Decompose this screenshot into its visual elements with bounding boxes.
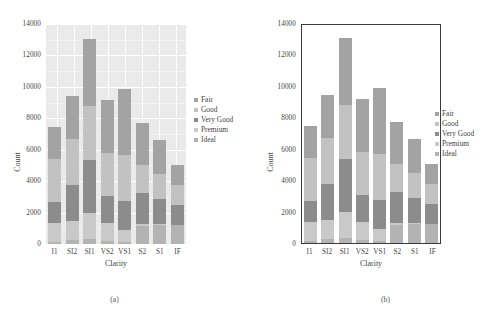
bar-SI1[interactable]	[339, 25, 352, 243]
bar-segment-I1-fair	[304, 126, 317, 157]
legend-item-very-good-b[interactable]: Very Good	[435, 130, 474, 137]
legend-item-good-b[interactable]: Good	[435, 120, 474, 127]
y-tick-14000-a: 14000	[23, 20, 46, 28]
bar-segment-SI2-premium	[66, 221, 79, 240]
bar-segment-SI2-very-good	[321, 184, 334, 220]
x-tick-IF-a: IF	[171, 248, 184, 256]
legend-swatch-icon	[435, 132, 439, 136]
bar-segment-VS2-fair	[356, 99, 369, 152]
bar-segment-IF-good	[425, 184, 438, 204]
legend-item-good-a[interactable]: Good	[194, 106, 233, 113]
bar-segment-VS1-fair	[373, 88, 386, 154]
y-tick-6000-a: 6000	[26, 146, 46, 154]
bar-segment-SI1-good	[339, 105, 352, 159]
bar-segment-IF-fair	[171, 165, 184, 185]
legend-item-fair-a[interactable]: Fair	[194, 96, 233, 103]
bar-segment-IF-ideal	[171, 225, 184, 244]
plot-wrapper-b: 02000400060008000100001200014000 I1SI2SI…	[301, 24, 441, 244]
bar-segment-VS1-good	[118, 155, 131, 202]
legend-label: Ideal	[442, 150, 457, 157]
bar-segment-VS2-very-good	[356, 195, 369, 222]
bar-SI2[interactable]	[321, 25, 334, 243]
bar-segment-S2-very-good	[136, 193, 149, 224]
legend-item-fair-b[interactable]: Fair	[435, 110, 474, 117]
y-tick-14000-b: 14000	[278, 20, 301, 28]
x-tick-S1-b: S1	[408, 248, 421, 256]
bar-segment-S1-good	[408, 173, 421, 197]
x-axis-label-a: Clarity	[46, 259, 186, 268]
x-tick-SI1-b: SI1	[338, 248, 351, 256]
bar-segment-SI2-good	[321, 138, 334, 184]
legend-item-ideal-a[interactable]: Ideal	[194, 136, 233, 143]
bar-I1[interactable]	[304, 25, 317, 243]
y-tick-12000-b: 12000	[278, 51, 301, 59]
legend-label: Ideal	[201, 136, 216, 143]
bar-segment-I1-ideal	[304, 241, 317, 243]
bar-segment-VS2-fair	[101, 100, 114, 153]
bar-VS2[interactable]	[101, 24, 114, 244]
x-tick-I1-a: I1	[48, 248, 61, 256]
x-tick-labels-b: I1SI2SI1VS2VS1S2S1IF	[301, 248, 441, 256]
legend-swatch-icon	[194, 138, 198, 142]
bar-segment-I1-premium	[304, 222, 317, 241]
y-tick-8000-b: 8000	[281, 114, 301, 122]
bar-segment-VS1-fair	[118, 89, 131, 155]
legend-a: FairGoodVery GoodPremiumIdeal	[194, 96, 233, 143]
x-tick-labels-a: I1SI2SI1VS2VS1S2S1IF	[46, 248, 186, 256]
bar-S1[interactable]	[408, 25, 421, 243]
bar-segment-VS1-very-good	[373, 200, 386, 229]
bar-segment-SI2-premium	[321, 220, 334, 239]
bar-segment-SI1-premium	[83, 213, 96, 240]
bar-VS1[interactable]	[118, 24, 131, 244]
legend-item-premium-b[interactable]: Premium	[435, 140, 474, 147]
legend-item-very-good-a[interactable]: Very Good	[194, 116, 233, 123]
legend-swatch-icon	[194, 98, 198, 102]
legend-b: FairGoodVery GoodPremiumIdeal	[435, 110, 474, 157]
plot-wrapper-a: 02000400060008000100001200014000 I1SI2SI…	[46, 24, 186, 244]
bar-VS1[interactable]	[373, 25, 386, 243]
legend-label: Very Good	[442, 130, 474, 137]
legend-item-ideal-b[interactable]: Ideal	[435, 150, 474, 157]
bar-segment-S1-good	[153, 174, 166, 198]
y-tick-10000-b: 10000	[278, 83, 301, 91]
bar-S1[interactable]	[153, 24, 166, 244]
bar-segment-I1-good	[304, 158, 317, 202]
bar-I1[interactable]	[48, 24, 61, 244]
bar-SI1[interactable]	[83, 24, 96, 244]
bar-segment-I1-very-good	[304, 201, 317, 222]
x-tick-VS2-b: VS2	[356, 248, 369, 256]
bar-S2[interactable]	[136, 24, 149, 244]
bar-segment-SI1-very-good	[83, 160, 96, 213]
bar-segment-SI2-fair	[66, 96, 79, 139]
legend-label: Very Good	[201, 116, 233, 123]
legend-label: Good	[201, 106, 217, 113]
y-tick-12000-a: 12000	[23, 51, 46, 59]
bar-segment-SI2-ideal	[66, 240, 79, 244]
panel-a: Count 02000400060008000100001200014000 I…	[0, 0, 249, 324]
bar-segment-I1-fair	[48, 127, 61, 158]
y-tick-4000-a: 4000	[26, 177, 46, 185]
bar-VS2[interactable]	[356, 25, 369, 243]
x-tick-IF-b: IF	[426, 248, 439, 256]
bar-segment-SI1-ideal	[83, 239, 96, 244]
bar-segment-S2-very-good	[390, 192, 403, 223]
y-tick-8000-a: 8000	[26, 114, 46, 122]
bars-container-b	[302, 25, 440, 243]
bar-IF[interactable]	[171, 24, 184, 244]
bar-segment-S1-fair	[153, 140, 166, 174]
bar-S2[interactable]	[390, 25, 403, 243]
bar-segment-I1-very-good	[48, 202, 61, 223]
bar-SI2[interactable]	[66, 24, 79, 244]
bar-segment-SI1-ideal	[339, 238, 352, 243]
x-tick-S1-a: S1	[153, 248, 166, 256]
y-tick-0-a: 0	[37, 240, 46, 248]
bar-segment-SI1-fair	[83, 39, 96, 106]
bar-segment-S1-very-good	[153, 199, 166, 225]
figure-two-panel-stacked-bar-charts: Count 02000400060008000100001200014000 I…	[0, 0, 498, 324]
bar-segment-VS1-good	[373, 154, 386, 201]
plot-area-a	[46, 24, 186, 244]
bar-segment-S1-fair	[408, 139, 421, 173]
legend-item-premium-a[interactable]: Premium	[194, 126, 233, 133]
y-tick-10000-a: 10000	[23, 83, 46, 91]
bar-segment-S1-ideal	[408, 224, 421, 243]
